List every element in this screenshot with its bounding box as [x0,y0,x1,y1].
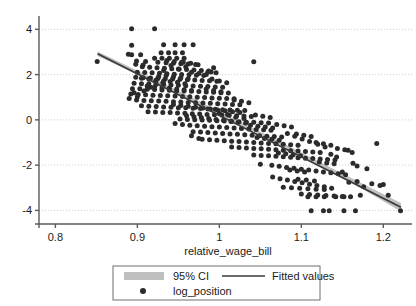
scatter-point [324,160,329,165]
scatter-point [355,164,360,169]
scatter-point [260,114,265,119]
scatter-point [160,110,165,115]
scatter-point [309,208,314,213]
scatter-point [179,60,184,65]
scatter-point [230,109,235,114]
scatter-point [171,102,176,107]
scatter-point [230,102,235,107]
scatter-point [159,56,164,61]
scatter-point [244,145,249,150]
scatter-point [180,50,185,55]
scatter-point [297,186,302,191]
scatter-point [214,117,219,122]
scatter-point [314,187,319,192]
y-tick-label: 0 [26,114,32,126]
scatter-point [296,177,301,182]
scatter-point [277,138,282,143]
scatter-point [156,99,161,104]
scatter-point [152,84,157,89]
scatter-point [350,150,355,155]
scatter-point [235,132,240,137]
scatter-point [188,61,193,66]
scatter-point [285,178,290,183]
scatter-point [215,101,220,106]
scatter-point [263,125,268,130]
scatter-point [317,159,322,164]
scatter-point [364,166,369,171]
legend-fitted-values-label: Fitted values [272,270,335,282]
scatter-point [314,194,319,199]
scatter-point [209,95,214,100]
scatter-point [333,194,338,199]
scatter-point [222,138,227,143]
scatter-point [218,89,223,94]
scatter-point [176,66,181,71]
scatter-point [321,141,326,146]
scatter-point [158,93,163,98]
scatter-point [175,80,180,85]
scatter-point [193,105,198,110]
scatter-point [266,147,271,152]
scatter-point [132,81,137,86]
scatter-point [242,108,247,113]
scatter-point [189,88,194,93]
scatter-plot-figure: 420-2-4 0.80.911.11.2 relative_wage_bill… [0,0,416,306]
y-tick-label: -2 [22,159,32,171]
scatter-point [229,145,234,150]
scatter-point [340,169,345,174]
scatter-point [208,101,213,106]
scatter-point [223,102,228,107]
scatter-point [173,121,178,126]
scatter-point [287,168,292,173]
scatter-point [164,58,169,63]
scatter-point [305,186,310,191]
scatter-point [191,42,196,47]
scatter-point [307,139,312,144]
scatter-point [211,65,216,70]
scatter-point [332,161,337,166]
scatter-point [274,122,279,127]
scatter-point [202,124,207,129]
scatter-point [209,124,214,129]
scatter-point [139,81,144,86]
scatter-point [168,79,173,84]
scatter-point [182,81,187,86]
scatter-point [206,116,211,121]
scatter-point [304,178,309,183]
legend-point-marker [140,288,146,294]
scatter-point [199,115,204,120]
scatter-point [147,65,152,70]
scatter-point [237,145,242,150]
scatter-point [180,122,185,127]
scatter-point [288,142,293,147]
x-tick-label: 1 [216,231,222,243]
scatter-point [152,26,157,31]
scatter-point [195,123,200,128]
scatter-point [161,78,166,83]
scatter-point [232,126,237,131]
scatter-point [129,26,134,31]
y-tick-label: 2 [26,69,32,81]
x-tick-label: 0.8 [48,231,63,243]
scatter-point [294,131,299,136]
scatter-point [150,70,155,75]
scatter-point [281,185,286,190]
scatter-point [145,83,150,88]
scatter-point [310,150,315,155]
scatter-point [141,63,146,68]
scatter-point [202,95,207,100]
scatter-point [207,137,212,142]
scatter-point [154,104,159,109]
scatter-point [295,169,300,174]
scatter-point [192,78,197,83]
scatter-point [237,139,242,144]
scatter-point [142,70,147,75]
x-tick-label: 0.9 [130,231,145,243]
scatter-point [312,178,317,183]
scatter-point [205,69,210,74]
scatter-point [196,71,201,76]
scatter-point [259,140,264,145]
scatter-point [214,138,219,143]
y-tick-label: 4 [26,23,32,35]
scatter-point [289,185,294,190]
